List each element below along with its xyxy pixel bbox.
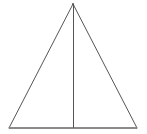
triangle-diagram — [0, 0, 147, 134]
triangle-right-side — [73, 4, 137, 128]
apex-vertex — [72, 3, 74, 5]
bottom-right-vertex — [136, 127, 137, 128]
bottom-left-vertex — [8, 127, 9, 128]
figure-canvas — [0, 0, 147, 134]
triangle-left-side — [9, 4, 73, 128]
